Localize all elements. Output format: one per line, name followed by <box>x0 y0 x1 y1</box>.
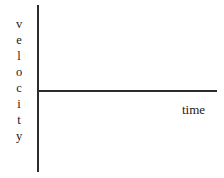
x-axis-label: time <box>182 102 205 118</box>
y-axis-line <box>37 5 39 172</box>
y-axis-label-char: e <box>16 32 22 48</box>
velocity-time-graph: v e l o c i t y time <box>0 0 224 178</box>
y-axis-label-char: l <box>17 48 20 64</box>
y-axis-label-char: y <box>16 128 22 144</box>
y-axis-label-char: v <box>16 16 22 32</box>
y-axis-label-char: o <box>16 64 22 80</box>
y-axis-label-char: c <box>16 80 22 96</box>
y-axis-label-char: t <box>17 112 20 128</box>
y-axis-label-char: i <box>17 96 20 112</box>
x-axis-line <box>37 90 217 92</box>
y-axis-label: v e l o c i t y <box>11 16 27 144</box>
